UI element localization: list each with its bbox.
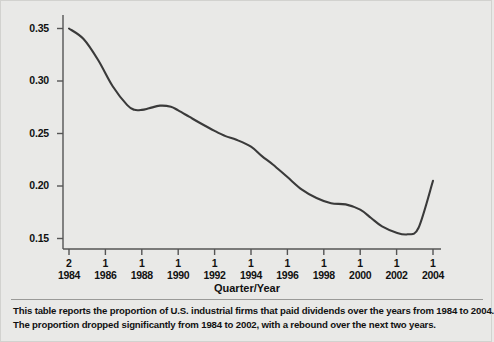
y-tick-label: 0.30 bbox=[9, 74, 49, 86]
y-axis-ticks bbox=[57, 29, 63, 239]
x-tick-quarter: 1 bbox=[412, 257, 454, 269]
y-tick-label: 0.25 bbox=[9, 127, 49, 139]
data-series-line bbox=[69, 29, 433, 235]
x-axis-title: Quarter/Year bbox=[1, 282, 493, 294]
caption-line-1: This table reports the proportion of U.S… bbox=[13, 304, 483, 318]
axis-lines bbox=[63, 15, 441, 249]
figure-caption: This table reports the proportion of U.S… bbox=[13, 304, 483, 331]
y-tick-label: 0.15 bbox=[9, 232, 49, 244]
y-tick-label: 0.35 bbox=[9, 22, 49, 34]
caption-divider bbox=[11, 299, 483, 300]
caption-line-2: The proportion dropped significantly fro… bbox=[13, 318, 483, 332]
x-tick-label-group: 12004 bbox=[412, 257, 454, 282]
x-axis-ticks bbox=[69, 249, 433, 255]
x-tick-year: 2004 bbox=[412, 269, 454, 282]
y-tick-label: 0.20 bbox=[9, 179, 49, 191]
